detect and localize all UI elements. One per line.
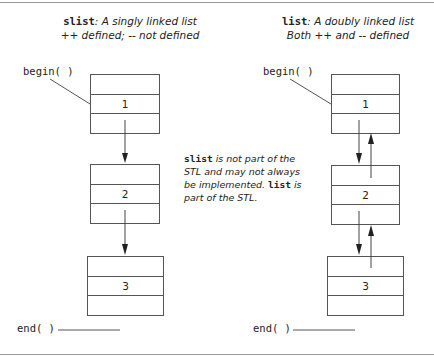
list-next-arrow-2-3 xyxy=(356,211,362,255)
list-prev-arrow-3-2 xyxy=(368,225,374,268)
slist-next-arrow-2-3 xyxy=(122,210,128,255)
slist-next-arrow-1-2 xyxy=(122,120,128,163)
list-prev-arrow-2-1 xyxy=(368,133,374,178)
slist-begin-pointer xyxy=(50,79,90,104)
list-next-arrow-1-2 xyxy=(356,120,362,164)
connector-layer xyxy=(0,0,434,357)
list-begin-pointer xyxy=(290,79,331,104)
